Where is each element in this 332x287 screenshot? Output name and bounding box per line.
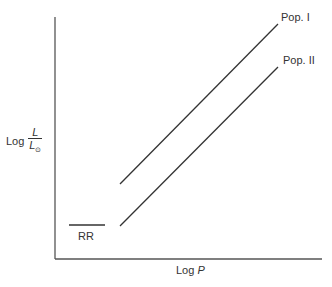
rr-label: RR bbox=[78, 230, 94, 242]
y-axis-label-prefix: Log bbox=[6, 135, 24, 147]
diagram-canvas bbox=[0, 0, 332, 287]
fraction-denominator: L⊙ bbox=[29, 139, 41, 156]
sun-symbol-icon: ⊙ bbox=[35, 146, 41, 153]
fraction-numerator: L bbox=[32, 126, 38, 138]
x-axis-label: Log P bbox=[176, 264, 205, 276]
pop-i-line bbox=[120, 24, 278, 184]
y-axis-label: Log L L⊙ bbox=[6, 126, 42, 156]
pop-ii-label: Pop. II bbox=[283, 54, 315, 66]
luminosity-fraction: L L⊙ bbox=[28, 126, 42, 156]
pop-ii-line bbox=[120, 67, 278, 226]
pop-i-label: Pop. I bbox=[281, 11, 310, 23]
